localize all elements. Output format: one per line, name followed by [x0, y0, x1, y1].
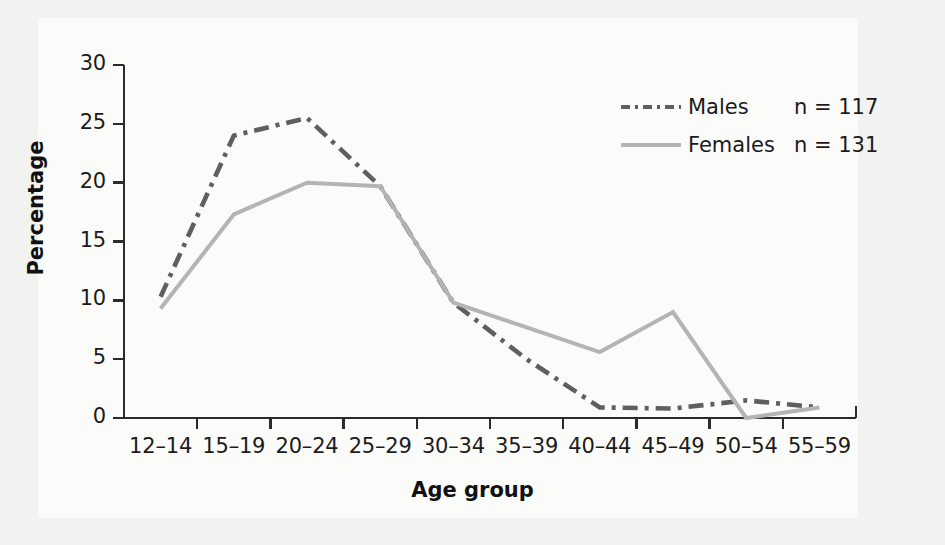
legend-n-males: n = 117 — [794, 95, 878, 119]
chart-figure: 051015202530 12–1415–1920–2425–2930–3435… — [0, 0, 945, 545]
x-tick-label: 55–59 — [773, 434, 865, 458]
plot-area — [0, 0, 945, 545]
y-axis-title: Percentage — [24, 128, 48, 288]
legend-line-solid-icon — [620, 138, 682, 152]
legend-line-dash-dot-icon — [620, 100, 682, 114]
y-tick-label: 10 — [60, 286, 106, 310]
legend-item-females: Females n = 131 — [620, 126, 920, 164]
legend-item-males: Males n = 117 — [620, 88, 920, 126]
y-tick-label: 0 — [60, 404, 106, 428]
y-tick-label: 15 — [60, 228, 106, 252]
y-tick-label: 25 — [60, 110, 106, 134]
legend-label-females: Females — [688, 133, 794, 157]
legend-label-males: Males — [688, 95, 794, 119]
series-line-females — [161, 183, 820, 418]
y-tick-label: 20 — [60, 169, 106, 193]
chart-legend: Males n = 117 Females n = 131 — [620, 88, 920, 164]
y-tick-label: 5 — [60, 345, 106, 369]
y-tick-label: 30 — [60, 51, 106, 75]
x-axis-title: Age group — [0, 478, 945, 502]
legend-n-females: n = 131 — [794, 133, 878, 157]
